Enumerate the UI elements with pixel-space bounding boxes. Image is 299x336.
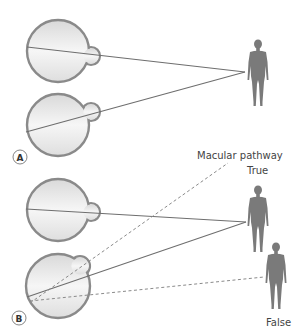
panel-b: Macular pathway True False B bbox=[12, 150, 291, 328]
svg-text:B: B bbox=[16, 314, 23, 324]
panel-label-b: B bbox=[12, 311, 26, 325]
person-figure-a bbox=[248, 39, 269, 106]
panel-label-a: A bbox=[13, 150, 27, 164]
eye-deviated-a bbox=[27, 94, 100, 156]
person-figure-false bbox=[266, 242, 287, 309]
person-figure-true bbox=[248, 185, 269, 252]
false-label: False bbox=[266, 317, 291, 328]
true-label: True bbox=[246, 165, 268, 176]
panel-a: A bbox=[13, 20, 269, 164]
svg-text:A: A bbox=[17, 153, 24, 163]
macular-pathway-label: Macular pathway bbox=[197, 150, 283, 161]
diagram: A Macular pathway True False bbox=[0, 0, 299, 336]
